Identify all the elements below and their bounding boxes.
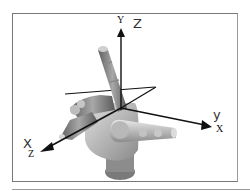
x-axis-handwritten-label: y bbox=[213, 108, 221, 121]
back-axis-line bbox=[65, 87, 155, 94]
diagonal-axis-line bbox=[121, 87, 156, 108]
y-axis-label: Y bbox=[117, 15, 124, 25]
z-axis-handwritten-label: X bbox=[23, 137, 32, 150]
y-axis-arrowhead bbox=[117, 28, 125, 37]
x-axis-arrowhead bbox=[201, 120, 212, 130]
hand-model bbox=[59, 46, 177, 180]
z-axis-arrowhead bbox=[40, 142, 54, 152]
hand-diagram bbox=[0, 0, 250, 191]
y-axis-handwritten-label: Z bbox=[133, 17, 142, 30]
x-axis-label: X bbox=[216, 124, 223, 134]
